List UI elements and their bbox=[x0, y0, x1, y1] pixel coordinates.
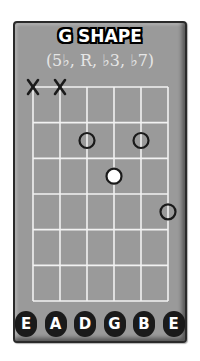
string-label: D bbox=[74, 311, 96, 337]
root-note-dot bbox=[107, 169, 122, 184]
string-label: G bbox=[104, 311, 126, 337]
string-label: E bbox=[163, 311, 185, 337]
string-label: A bbox=[45, 311, 67, 337]
string-label: B bbox=[133, 311, 155, 337]
fretboard-diagram bbox=[0, 0, 200, 361]
fretboard-grid bbox=[33, 87, 168, 301]
string-labels: EADGBE bbox=[0, 311, 200, 339]
string-label: E bbox=[15, 311, 37, 337]
note-markers bbox=[80, 133, 176, 219]
